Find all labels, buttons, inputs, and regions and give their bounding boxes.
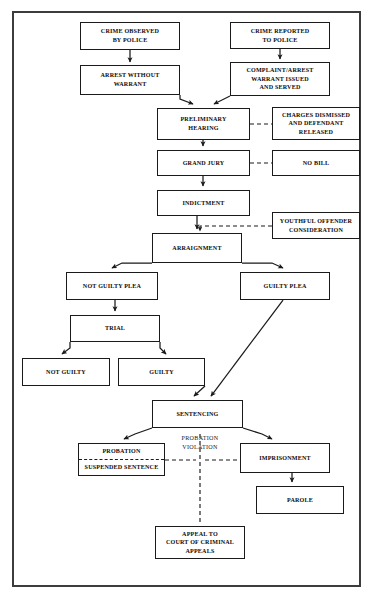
node-complaint-arrest-warrant[interactable]: Complaint/Arrest Warrant Issued and Serv…: [230, 62, 330, 96]
node-not-guilty[interactable]: Not Guilty: [22, 358, 110, 386]
node-arrest-without-warrant[interactable]: Arrest Without Warrant: [80, 65, 180, 95]
node-line: Warrant Issued: [251, 75, 308, 84]
node-line: Arraignment: [172, 244, 221, 253]
node-line: Probation: [102, 447, 140, 456]
node-line: and Served: [259, 83, 300, 92]
node-line: by Police: [113, 36, 148, 45]
node-line: to Police: [262, 36, 297, 45]
node-line: Parole: [287, 496, 313, 505]
node-line: Court of Criminal: [166, 538, 234, 547]
node-line: Trial: [105, 324, 125, 333]
node-probation-suspended-sentence[interactable]: Probation Suspended Sentence: [78, 443, 165, 476]
node-crime-reported[interactable]: Crime Reported to Police: [230, 22, 330, 49]
node-line: Sentencing: [176, 410, 218, 419]
node-guilty-plea[interactable]: Guilty Plea: [240, 272, 330, 300]
node-line: Arrest Without: [100, 71, 159, 80]
flowchart-page: Crime Observed by Police Crime Reported …: [0, 0, 377, 604]
label-probation-violation: Probation Violation: [170, 434, 230, 452]
node-trial[interactable]: Trial: [70, 315, 160, 342]
node-not-guilty-plea[interactable]: Not Guilty Plea: [66, 272, 158, 300]
node-youthful-offender-consideration[interactable]: Youthful Offender Consideration: [272, 212, 360, 239]
node-indictment[interactable]: Indictment: [157, 190, 250, 216]
node-arraignment[interactable]: Arraignment: [152, 233, 242, 263]
node-line: Warrant: [114, 80, 147, 89]
node-sentencing[interactable]: Sentencing: [152, 400, 243, 428]
node-guilty[interactable]: Guilty: [118, 358, 205, 386]
suspended-sentence-cell: Suspended Sentence: [79, 460, 164, 475]
node-line: Crime Reported: [251, 27, 310, 36]
node-no-bill[interactable]: No Bill: [272, 150, 360, 176]
node-line: Crime Observed: [101, 27, 159, 36]
node-line: Hearing: [188, 124, 218, 133]
node-line: Complaint/Arrest: [246, 66, 313, 75]
node-grand-jury[interactable]: Grand Jury: [157, 150, 250, 176]
node-line: Released: [299, 128, 333, 137]
node-line: Preliminary: [180, 115, 226, 124]
node-line: Imprisonment: [259, 454, 311, 463]
label-line: Probation: [170, 434, 230, 443]
node-line: Youthful Offender: [280, 217, 352, 226]
node-line: and Defendant: [289, 119, 344, 128]
node-line: Not Guilty Plea: [83, 282, 141, 291]
node-line: Indictment: [182, 199, 224, 208]
node-charges-dismissed[interactable]: Charges Dismissed and Defendant Released: [272, 107, 360, 140]
node-crime-observed[interactable]: Crime Observed by Police: [80, 22, 180, 50]
node-imprisonment[interactable]: Imprisonment: [240, 443, 330, 473]
node-line: Guilty Plea: [263, 282, 306, 291]
node-line: Not Guilty: [46, 368, 86, 377]
probation-cell: Probation: [79, 444, 164, 460]
node-appeal-court-of-criminal-appeals[interactable]: Appeal to Court of Criminal Appeals: [155, 526, 245, 559]
node-line: Guilty: [149, 368, 174, 377]
node-line: Charges Dismissed: [282, 111, 350, 120]
label-line: Violation: [170, 443, 230, 452]
node-line: Consideration: [289, 226, 343, 235]
node-parole[interactable]: Parole: [256, 486, 344, 514]
node-line: Grand Jury: [183, 159, 225, 168]
node-preliminary-hearing[interactable]: Preliminary Hearing: [157, 108, 250, 140]
node-line: No Bill: [303, 159, 330, 168]
node-line: Appeals: [185, 547, 214, 556]
node-line: Appeal to: [182, 530, 218, 539]
node-line: Suspended Sentence: [85, 463, 159, 472]
